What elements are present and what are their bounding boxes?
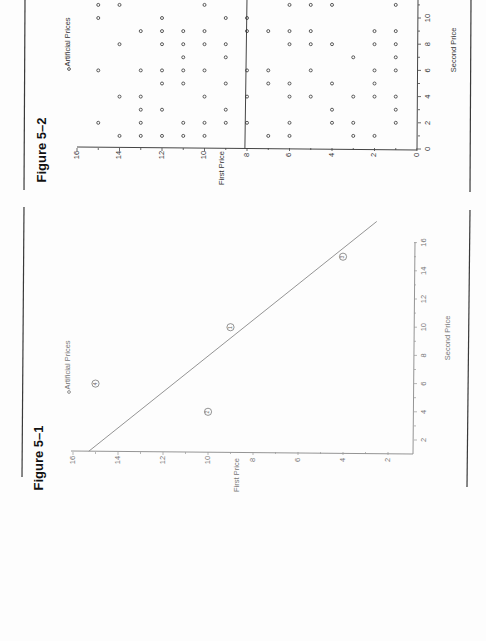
fig2-data-point	[309, 43, 312, 46]
fig2-data-point	[182, 121, 185, 124]
fig2-fp-tick-label: 14	[114, 151, 123, 159]
fig2-data-point	[118, 3, 121, 6]
fig2-data-point	[352, 134, 355, 137]
fig2-data-point	[331, 108, 334, 111]
fig2-fp-tick-label: 10	[199, 151, 208, 159]
fig1-fp-tick-label: 8	[248, 458, 257, 462]
fig2-data-point	[309, 3, 312, 6]
fig1-sp-tick-label: 6	[419, 382, 428, 386]
fig2-data-point	[267, 69, 270, 72]
fig1-sp-tick-label: 16	[419, 238, 428, 246]
fig2-data-point	[288, 30, 291, 33]
fig2-data-point	[182, 30, 185, 33]
fig2-data-point	[182, 69, 185, 72]
fig2-data-point	[331, 3, 334, 6]
fig2-data-point	[288, 3, 291, 6]
fig1-first-price-label: First Price	[232, 458, 241, 492]
fig2-data-point	[139, 121, 142, 124]
fig1-point-number: 2	[204, 410, 210, 413]
fig2-data-point	[203, 69, 206, 72]
fig2-data-point	[309, 30, 312, 33]
fig2-data-point	[161, 30, 164, 33]
fig2-data-point	[352, 121, 355, 124]
fig2-fp-tick-label: 0	[412, 153, 421, 157]
fig2-sp-tick-label: 8	[423, 42, 432, 46]
fig2-data-point	[182, 82, 185, 85]
fig2-data-point	[161, 134, 164, 137]
fig2-data-point	[118, 43, 121, 46]
fig2-data-point	[118, 134, 121, 137]
fig1-figure-label: Figure 5–1	[31, 425, 46, 490]
fig2-sp-tick-label: 0	[423, 147, 432, 151]
fig1-point-number: 3	[339, 255, 345, 258]
fig2-data-point	[267, 82, 270, 85]
fig2-right-rule	[470, 0, 471, 192]
fig2-left-rule	[24, 0, 25, 190]
fig1-second-price-label: Second Price	[443, 316, 452, 361]
fig2-legend-marker	[68, 68, 71, 71]
fig1-first-price-axis	[71, 451, 413, 454]
fig1-sp-tick-label: 4	[419, 410, 428, 414]
fig2-data-point	[203, 121, 206, 124]
fig2-data-point	[246, 121, 249, 124]
fig2-data-point	[373, 69, 376, 72]
fig1-legend-marker	[68, 391, 71, 394]
fig2-data-point	[97, 17, 100, 20]
fig1-sp-tick-label: 10	[419, 323, 428, 331]
fig1-fp-tick-label: 16	[68, 456, 77, 464]
fig2-data-point	[309, 69, 312, 72]
fig2-data-point	[288, 95, 291, 98]
fig2-data-point	[203, 3, 206, 6]
fig2-data-point	[139, 108, 142, 111]
fig2-sp-tick-label: 4	[423, 95, 432, 99]
fig1-right-rule	[467, 210, 470, 487]
fig2-data-point	[161, 69, 164, 72]
fig2-data-point	[224, 82, 227, 85]
fig1-sp-tick-label: 2	[419, 438, 428, 442]
fig2-second-price-label: Second Price	[449, 28, 458, 73]
fig2-data-point	[352, 56, 355, 59]
fig2-data-point	[331, 43, 334, 46]
fig2-data-point	[203, 95, 206, 98]
fig2-data-point	[97, 3, 100, 6]
fig2-data-point	[139, 69, 142, 72]
fig1-reference-line	[89, 221, 377, 451]
fig2-data-point	[394, 95, 397, 98]
fig1-left-rule	[22, 207, 24, 477]
fig2-figure-label: Figure 5–2	[34, 117, 49, 182]
fig2-data-point	[394, 108, 397, 111]
fig2-data-point	[373, 82, 376, 85]
fig1-fp-tick-label: 6	[293, 458, 302, 462]
fig2-data-point	[182, 134, 185, 137]
fig1-sp-tick-label: 8	[419, 353, 428, 357]
fig2-data-point	[288, 43, 291, 46]
fig2-data-point	[394, 121, 397, 124]
fig2-data-point	[309, 95, 312, 98]
fig1-point-number: 4	[92, 382, 98, 385]
fig2-data-point	[352, 95, 355, 98]
fig2-first-price-label: First Price	[217, 151, 226, 185]
fig2-data-point	[224, 43, 227, 46]
fig1-fp-tick-label: 12	[158, 456, 167, 464]
fig2-sp-tick-label: 10	[423, 14, 432, 22]
fig2-data-point	[139, 95, 142, 98]
fig2-data-point	[373, 30, 376, 33]
fig2-sp-tick-label: 6	[423, 68, 432, 72]
fig2-data-point	[373, 134, 376, 137]
fig1-sp-tick-label: 14	[419, 267, 428, 275]
fig2-data-point	[394, 43, 397, 46]
fig1-fp-tick-label: 14	[113, 456, 122, 464]
fig2-data-point	[394, 69, 397, 72]
fig2-data-point	[161, 17, 164, 20]
fig2-fp-tick-label: 6	[284, 153, 293, 157]
fig2-data-point	[224, 56, 227, 59]
fig2-data-point	[267, 30, 270, 33]
fig2-data-point	[224, 17, 227, 20]
fig1-fp-tick-label: 4	[338, 458, 347, 462]
fig2-data-point	[203, 30, 206, 33]
fig2-data-point	[394, 3, 397, 6]
fig2-data-point	[182, 56, 185, 59]
fig2-data-point	[394, 56, 397, 59]
fig2-data-point	[97, 121, 100, 124]
fig2-data-point	[288, 134, 291, 137]
